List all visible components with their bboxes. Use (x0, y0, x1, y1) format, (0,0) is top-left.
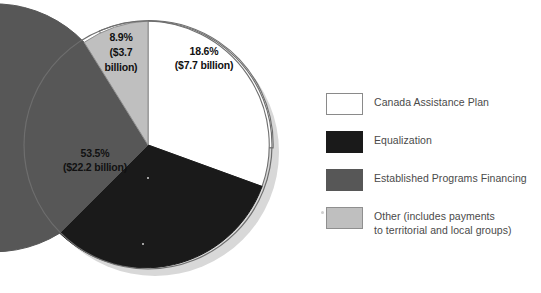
legend-item-canada-assistance-plan[interactable]: Canada Assistance Plan (326, 93, 538, 131)
pie-chart-svg (0, 0, 300, 293)
legend-label-other: Other (includes payments to territorial … (374, 209, 512, 237)
legend-item-equalization[interactable]: Equalization (326, 131, 538, 169)
legend-label-canada-assistance-plan: Canada Assistance Plan (374, 95, 489, 109)
pie-chart-plot-area: 18.6% ($7.7 billion) 19.0% ($7.9 billion… (0, 0, 300, 293)
scan-speck (321, 211, 324, 214)
legend-label-equalization: Equalization (374, 133, 432, 147)
legend-swatch-established-programs-financing (326, 169, 363, 191)
legend-label-established-programs-financing: Established Programs Financing (374, 171, 527, 185)
legend-item-other[interactable]: Other (includes payments to territorial … (326, 207, 538, 245)
legend-swatch-canada-assistance-plan (326, 93, 363, 115)
legend-item-established-programs-financing[interactable]: Established Programs Financing (326, 169, 538, 207)
pie-chart-figure: 18.6% ($7.7 billion) 19.0% ($7.9 billion… (0, 0, 541, 293)
legend-swatch-equalization (326, 131, 363, 153)
chart-legend: Canada Assistance Plan Equalization Esta… (326, 93, 538, 245)
legend-swatch-other (326, 207, 363, 229)
